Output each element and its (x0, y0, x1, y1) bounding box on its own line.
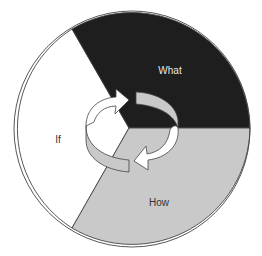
what-if-how-cycle-diagram: What If How (0, 0, 262, 256)
label-if: If (55, 134, 61, 145)
label-what: What (158, 65, 182, 76)
label-how: How (149, 197, 170, 208)
